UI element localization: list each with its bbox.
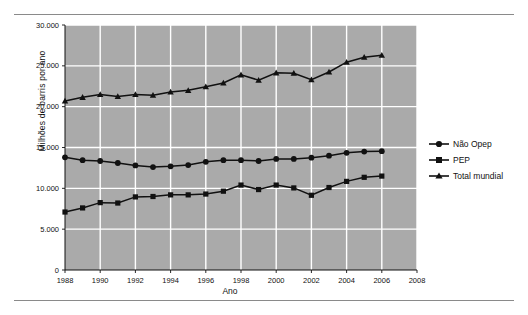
data-point-circle [361, 149, 367, 155]
x-tick-label: 1998 [233, 276, 250, 285]
data-point-square [221, 189, 226, 194]
data-point-circle [221, 157, 227, 163]
y-axis-title: Milhões de barris por ano [37, 21, 47, 181]
data-point-square [168, 192, 173, 197]
data-point-square [238, 182, 243, 187]
data-point-square [203, 191, 208, 196]
triangle-marker-icon [428, 170, 450, 182]
x-tick-label: 2008 [409, 276, 426, 285]
x-tick-label: 1990 [92, 276, 109, 285]
data-point-square [362, 175, 367, 180]
x-tick-label: 2002 [303, 276, 320, 285]
data-point-circle [326, 153, 332, 159]
data-point-circle [168, 163, 174, 169]
data-point-square [379, 173, 384, 178]
data-point-circle [62, 154, 68, 160]
data-point-circle [379, 148, 385, 154]
data-point-circle [80, 157, 86, 163]
data-point-square [274, 182, 279, 187]
x-tick-label: 1994 [162, 276, 179, 285]
legend-item-pep: PEP [428, 152, 503, 168]
data-point-circle [273, 156, 279, 162]
data-point-square [62, 209, 67, 214]
x-tick-label: 1988 [57, 276, 74, 285]
data-point-square [150, 194, 155, 199]
data-point-circle [309, 155, 315, 161]
data-point-square [344, 179, 349, 184]
data-point-circle [291, 156, 297, 162]
data-point-square [291, 185, 296, 190]
legend-item-total-mundial: Total mundial [428, 168, 503, 184]
x-tick-label: 1992 [127, 276, 144, 285]
x-tick-label: 2000 [268, 276, 285, 285]
data-point-circle [203, 159, 209, 165]
y-tick-label: 0 [55, 266, 59, 275]
data-point-square [133, 194, 138, 199]
data-point-square [186, 192, 191, 197]
data-point-square [256, 187, 261, 192]
data-point-circle [238, 157, 244, 163]
data-point-square [80, 205, 85, 210]
data-point-circle [97, 158, 103, 164]
data-point-circle [150, 164, 156, 170]
chart-legend: Não Opep PEP Total mundial [428, 136, 503, 184]
y-tick-label: 5.000 [40, 225, 59, 234]
x-tick-label: 2006 [373, 276, 390, 285]
data-point-circle [344, 150, 350, 156]
square-marker-icon [428, 154, 450, 166]
data-point-circle [256, 158, 262, 164]
legend-label-total-mundial: Total mundial [450, 171, 503, 181]
x-tick-label: 1996 [197, 276, 214, 285]
legend-label-pep: PEP [450, 155, 470, 165]
data-point-square [309, 193, 314, 198]
y-tick-label: 10.000 [36, 184, 59, 193]
data-point-circle [133, 163, 139, 169]
data-point-circle [185, 162, 191, 168]
circle-marker-icon [428, 138, 450, 150]
x-axis-title: Ano [150, 286, 310, 296]
data-point-square [326, 185, 331, 190]
data-point-circle [115, 160, 121, 166]
figure-container: 05.00010.00015.00020.00025.00030.0001988… [0, 0, 528, 315]
x-tick-label: 2004 [338, 276, 355, 285]
legend-item-nao-opep: Não Opep [428, 136, 503, 152]
legend-label-nao-opep: Não Opep [450, 139, 492, 149]
data-point-square [98, 200, 103, 205]
data-point-square [115, 200, 120, 205]
